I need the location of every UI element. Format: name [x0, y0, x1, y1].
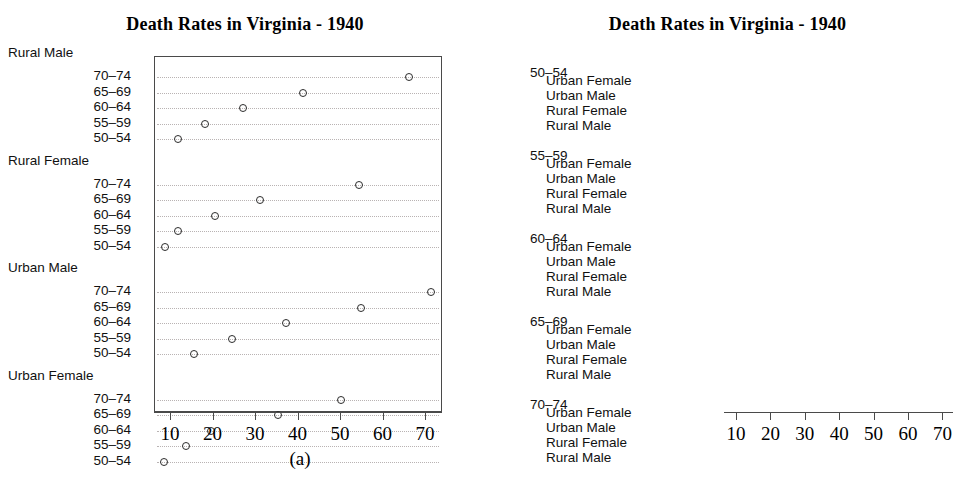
row-label: 70–74 — [0, 284, 131, 298]
row-label: 55–59 — [0, 439, 131, 453]
row-label: 70–74 — [0, 392, 131, 406]
axis-tick-label: 70 — [416, 423, 435, 445]
axis-tick-label: 10 — [727, 423, 746, 445]
row-label: 55–59 — [0, 116, 131, 130]
gridline — [157, 247, 439, 248]
axis-tick-label: 30 — [795, 423, 814, 445]
row-label: 55–59 — [0, 224, 131, 238]
row-label: Rural Male — [546, 368, 611, 382]
data-point — [405, 73, 413, 81]
row-label: 65–69 — [0, 85, 131, 99]
gridline — [157, 108, 439, 109]
data-point — [355, 181, 363, 189]
gridline — [157, 185, 439, 186]
row-label: 50–54 — [0, 347, 131, 361]
gridline — [157, 339, 439, 340]
gridline — [157, 231, 439, 232]
data-point — [357, 304, 365, 312]
data-point — [201, 120, 209, 128]
group-heading: Urban Male — [8, 261, 78, 275]
gridline — [157, 124, 439, 125]
row-label: 70–74 — [0, 69, 131, 83]
row-label: Rural Male — [546, 285, 611, 299]
data-point — [228, 335, 236, 343]
data-point — [427, 288, 435, 296]
dotplot-panel-b: Death Rates in Virginia - 1940 102030405… — [490, 0, 965, 478]
axis-tick — [908, 412, 909, 420]
row-label: 60–64 — [0, 315, 131, 329]
row-label: Rural Female — [546, 187, 627, 201]
data-point — [174, 227, 182, 235]
axis-tick-label: 50 — [331, 423, 350, 445]
row-label: 65–69 — [0, 407, 131, 421]
row-label: 50–54 — [0, 454, 131, 468]
row-label: Urban Female — [546, 406, 632, 420]
row-label: Urban Male — [546, 338, 616, 352]
row-label: Urban Male — [546, 89, 616, 103]
axis-tick-label: 60 — [899, 423, 918, 445]
data-point — [299, 89, 307, 97]
data-point — [211, 212, 219, 220]
axis-tick — [383, 412, 384, 420]
axis-tick — [425, 412, 426, 420]
row-label: 50–54 — [0, 239, 131, 253]
axis-tick — [255, 412, 256, 420]
axis-tick — [736, 412, 737, 420]
axis-tick — [170, 412, 171, 420]
axis-tick-label: 10 — [161, 423, 180, 445]
axis-tick-label: 40 — [288, 423, 307, 445]
panel-a-plot-area — [154, 56, 442, 412]
axis-tick-label: 60 — [373, 423, 392, 445]
row-label: Rural Male — [546, 119, 611, 133]
row-label: Urban Female — [546, 240, 632, 254]
panel-a-caption: (a) — [150, 448, 450, 470]
gridline — [157, 77, 439, 78]
data-point — [239, 104, 247, 112]
axis-tick — [340, 412, 341, 420]
row-label: Urban Male — [546, 421, 616, 435]
row-label: Urban Male — [546, 172, 616, 186]
row-label: Rural Female — [546, 104, 627, 118]
group-heading: Rural Male — [8, 46, 73, 60]
gridline — [157, 139, 439, 140]
row-label: Urban Female — [546, 74, 632, 88]
axis-tick — [770, 412, 771, 420]
row-label: Urban Female — [546, 323, 632, 337]
axis-tick — [805, 412, 806, 420]
axis-tick-label: 20 — [761, 423, 780, 445]
row-label: Rural Male — [546, 202, 611, 216]
axis-tick-label: 30 — [246, 423, 265, 445]
row-label: Urban Male — [546, 255, 616, 269]
data-point — [337, 396, 345, 404]
row-label: 60–64 — [0, 423, 131, 437]
panel-a-title: Death Rates in Virginia - 1940 — [0, 14, 490, 35]
data-point — [190, 350, 198, 358]
row-label: Rural Female — [546, 436, 627, 450]
row-label: 65–69 — [0, 192, 131, 206]
axis-tick-label: 50 — [864, 423, 883, 445]
axis-tick — [213, 412, 214, 420]
data-point — [256, 196, 264, 204]
data-point — [174, 135, 182, 143]
gridline — [157, 354, 439, 355]
panel-b-title: Death Rates in Virginia - 1940 — [490, 14, 965, 35]
row-label: 50–54 — [0, 132, 131, 146]
gridline — [157, 216, 439, 217]
row-label: Rural Female — [546, 270, 627, 284]
gridline — [157, 292, 439, 293]
row-label: 60–64 — [0, 100, 131, 114]
data-point — [282, 319, 290, 327]
gridline — [157, 308, 439, 309]
row-label: 55–59 — [0, 331, 131, 345]
group-heading: Rural Female — [8, 154, 89, 168]
dotplot-panel-a: Death Rates in Virginia - 1940 102030405… — [0, 0, 490, 478]
row-label: 70–74 — [0, 177, 131, 191]
gridline — [157, 200, 439, 201]
row-label: Urban Female — [546, 157, 632, 171]
row-label: 60–64 — [0, 208, 131, 222]
axis-tick-label: 20 — [203, 423, 222, 445]
data-point — [161, 243, 169, 251]
axis-tick-label: 70 — [933, 423, 952, 445]
group-heading: Urban Female — [8, 369, 94, 383]
axis-tick — [874, 412, 875, 420]
